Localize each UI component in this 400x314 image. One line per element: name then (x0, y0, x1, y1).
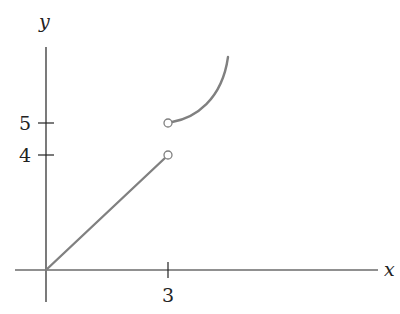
open-point-3-5 (164, 119, 172, 127)
y-tick-label-4: 4 (19, 144, 31, 166)
open-point-3-4 (164, 151, 172, 159)
y-axis-label: y (38, 10, 50, 32)
x-axis-label: x (384, 258, 395, 280)
y-tick-label-5: 5 (19, 112, 31, 134)
x-tick-label-3: 3 (162, 284, 174, 306)
piecewise-function-chart: x y 3 4 5 (0, 0, 400, 314)
linear-segment (46, 158, 165, 270)
curved-segment (172, 57, 228, 122)
